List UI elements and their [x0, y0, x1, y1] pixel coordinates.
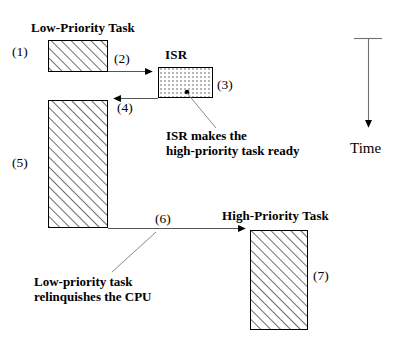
- relinquish-caption-leader: [112, 232, 156, 272]
- isr-caption-leader: [187, 93, 216, 128]
- low-priority-task-title: Low-Priority Task: [31, 21, 135, 36]
- time-axis: [354, 39, 382, 128]
- step-label-3: (3): [217, 77, 233, 92]
- step-label-6: (6): [155, 211, 171, 226]
- step-label-1: (1): [12, 44, 28, 59]
- step-label-7: (7): [313, 268, 329, 283]
- timing-diagram: Low-Priority Task ISR High-Priority Task…: [0, 0, 404, 348]
- task-block-1: [49, 41, 108, 72]
- isr-caption-line-2: high-priority task ready: [166, 143, 299, 158]
- high-priority-task-title: High-Priority Task: [222, 209, 329, 224]
- task-block-7: [251, 231, 308, 330]
- step-label-5: (5): [12, 155, 28, 170]
- task-block-5: [49, 101, 108, 228]
- relinquish-caption-line-2: relinquishes the CPU: [34, 289, 152, 304]
- isr-title: ISR: [165, 48, 187, 63]
- isr-caption-line-1: ISR makes the: [166, 128, 247, 143]
- step-label-2: (2): [114, 51, 130, 66]
- isr-block-3: [159, 68, 213, 98]
- step-label-4: (4): [117, 100, 133, 115]
- time-axis-label: Time: [350, 140, 381, 157]
- relinquish-caption-line-1: Low-priority task: [34, 274, 133, 289]
